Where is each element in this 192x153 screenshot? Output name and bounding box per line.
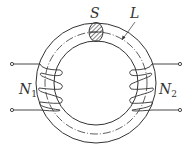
label-s: S bbox=[90, 5, 100, 21]
inner-ring bbox=[54, 41, 138, 125]
label-n2: N2 bbox=[158, 81, 177, 99]
toroid-diagram: S L N1 N2 bbox=[0, 0, 192, 153]
label-n2-main: N bbox=[158, 81, 172, 97]
mean-path-dashed bbox=[45, 32, 147, 134]
label-n1-main: N bbox=[18, 81, 32, 97]
label-l: L bbox=[129, 5, 139, 21]
label-n2-sub: 2 bbox=[171, 89, 177, 99]
label-n1-sub: 1 bbox=[31, 89, 37, 99]
label-n1: N1 bbox=[18, 81, 37, 99]
